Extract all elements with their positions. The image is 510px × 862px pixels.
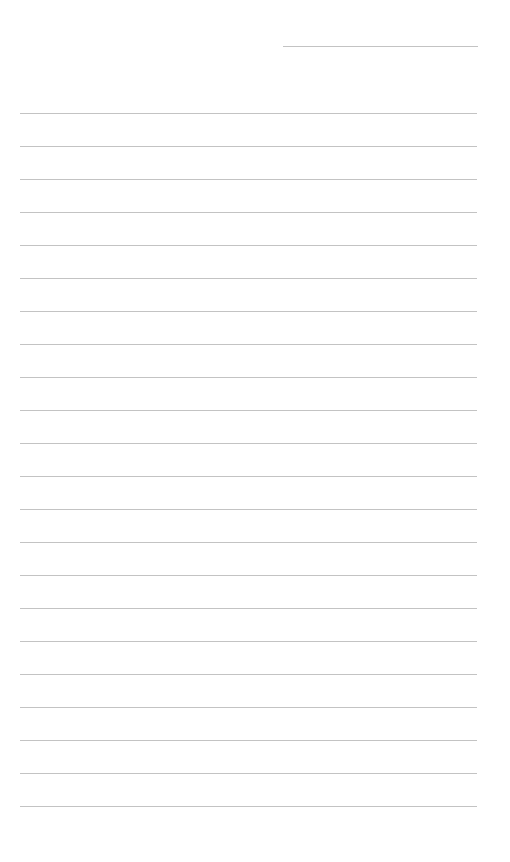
ruled-line <box>20 410 477 411</box>
ruled-line <box>20 542 477 543</box>
ruled-line <box>20 146 477 147</box>
ruled-line <box>20 212 477 213</box>
ruled-line <box>20 674 477 675</box>
lined-paper-page <box>0 0 510 862</box>
ruled-line <box>20 179 477 180</box>
ruled-line <box>20 344 477 345</box>
ruled-line <box>20 113 477 114</box>
ruled-line <box>20 608 477 609</box>
ruled-line <box>20 806 477 807</box>
ruled-line <box>20 476 477 477</box>
header-line <box>283 46 478 47</box>
ruled-line <box>20 278 477 279</box>
ruled-line <box>20 575 477 576</box>
ruled-line <box>20 641 477 642</box>
ruled-line <box>20 311 477 312</box>
ruled-line <box>20 509 477 510</box>
ruled-line <box>20 245 477 246</box>
ruled-line <box>20 707 477 708</box>
ruled-line <box>20 443 477 444</box>
ruled-line <box>20 773 477 774</box>
ruled-line <box>20 377 477 378</box>
ruled-line <box>20 740 477 741</box>
